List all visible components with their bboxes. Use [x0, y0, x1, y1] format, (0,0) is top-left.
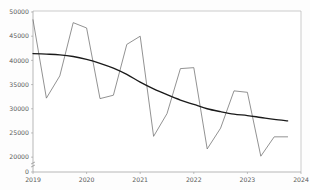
x-axis-ticks: 201920202021202220232024 [25, 172, 309, 183]
x-tick-label: 2021 [132, 176, 148, 183]
y-tick-label: 30000 [9, 105, 29, 112]
y-tick-label: 50000 [9, 8, 29, 15]
x-tick-label: 2024 [293, 176, 309, 183]
x-tick-label: 2020 [79, 176, 95, 183]
y-tick-label: 0 [25, 168, 29, 175]
plot-background [33, 11, 301, 172]
x-tick-label: 2023 [240, 176, 256, 183]
y-tick-label: 20000 [9, 153, 29, 160]
x-tick-label: 2019 [25, 176, 41, 183]
y-tick-label: 45000 [9, 32, 29, 39]
plot-frame [31, 11, 301, 172]
y-tick-label: 25000 [9, 129, 29, 136]
chart-container: 020000250003000035000400004500050000 201… [0, 0, 310, 190]
y-axis-ticks: 020000250003000035000400004500050000 [9, 8, 33, 175]
y-tick-label: 40000 [9, 57, 29, 64]
line-chart: 020000250003000035000400004500050000 201… [0, 0, 310, 190]
y-tick-label: 35000 [9, 81, 29, 88]
x-tick-label: 2022 [186, 176, 202, 183]
